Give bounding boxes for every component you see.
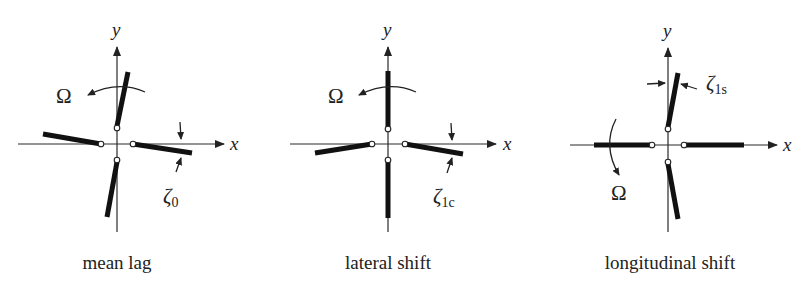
y-axis-label: y xyxy=(110,19,121,40)
caption-mean-lag: mean lag xyxy=(0,252,247,274)
angle-label: ζ0 xyxy=(163,184,179,210)
angle-pointer-bottom xyxy=(447,158,452,173)
caption-longitudinal-shift: longitudinal shift xyxy=(540,252,800,274)
hinge-right xyxy=(681,142,687,148)
angle-label: ζ1s xyxy=(706,71,727,97)
blade-lag-modes-diagram: x y Ω ζ0 x y Ω xyxy=(0,0,805,292)
x-axis-label: x xyxy=(229,133,239,154)
hinge-right xyxy=(130,141,136,147)
angle-pointer-left xyxy=(647,83,665,84)
blade-up xyxy=(117,72,128,126)
blade-up xyxy=(668,73,678,127)
hinge-left xyxy=(98,141,104,147)
hinge-bottom xyxy=(385,157,391,163)
caption-lateral-shift: lateral shift xyxy=(258,252,518,274)
blade-down xyxy=(107,162,117,217)
hinge-bottom xyxy=(665,159,671,165)
blade-down xyxy=(668,164,678,219)
hinge-top xyxy=(114,125,120,131)
hinge-left xyxy=(649,142,655,148)
angle-pointer-top xyxy=(180,122,181,139)
angle-pointer-right xyxy=(681,84,697,89)
rotation-label: Ω xyxy=(328,84,344,108)
panel-mean-lag: x y Ω ζ0 xyxy=(18,19,239,232)
angle-pointer-bottom xyxy=(176,158,181,172)
hinge-left xyxy=(369,141,375,147)
angle-label: ζ1c xyxy=(433,184,455,210)
hinge-right xyxy=(402,141,408,147)
y-axis-label: y xyxy=(661,20,672,41)
blade-right xyxy=(133,144,192,153)
rotation-label: Ω xyxy=(611,181,627,205)
panel-longitudinal-shift: x y Ω ζ1s xyxy=(570,20,792,232)
x-axis-label: x xyxy=(502,133,512,154)
hinge-bottom xyxy=(114,157,120,163)
panel-lateral-shift: x y Ω ζ1c xyxy=(290,19,512,232)
hinge-top xyxy=(385,126,391,132)
hinge-top xyxy=(665,126,671,132)
x-axis-label: x xyxy=(782,134,792,155)
blade-left xyxy=(315,144,372,153)
y-axis-label: y xyxy=(381,19,392,40)
rotation-label: Ω xyxy=(56,84,72,108)
blade-right xyxy=(405,144,463,154)
blade-left xyxy=(43,134,101,144)
angle-pointer-top xyxy=(451,123,452,140)
